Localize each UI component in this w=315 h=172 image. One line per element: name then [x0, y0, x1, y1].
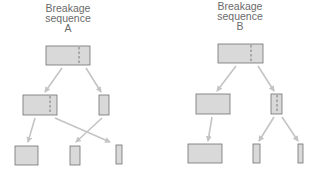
sequence-b-bottom-piece-3 — [298, 144, 303, 163]
sequence-b — [188, 44, 303, 163]
sequence-a-mid-right-fragment — [99, 95, 109, 115]
breakage-diagram — [0, 0, 315, 172]
arrow-b-left-to-bottom1 — [208, 117, 212, 141]
sequence-a-top-fragment — [46, 46, 90, 65]
sequence-a-bottom-piece-1 — [15, 146, 38, 165]
arrow-b-top-to-left — [217, 66, 236, 91]
sequence-a-bottom-piece-3 — [116, 145, 122, 164]
arrow-a-left-to-bottom1 — [28, 118, 35, 142]
sequence-b-mid-right-fragment — [271, 94, 282, 114]
sequence-b-bottom-piece-1 — [188, 144, 222, 163]
arrow-b-top-to-right — [258, 66, 274, 91]
sequence-b-mid-left-fragment — [196, 94, 230, 114]
arrow-a-left-to-bottom3 — [55, 118, 110, 142]
arrow-a-right-to-bottom2 — [76, 118, 102, 142]
sequence-b-bottom-piece-2 — [253, 144, 260, 163]
sequence-a-bottom-piece-2 — [70, 146, 80, 165]
sequence-a — [15, 46, 122, 165]
sequence-b-top-fragment — [218, 44, 263, 63]
arrow-a-top-to-left — [45, 68, 62, 92]
arrow-b-right-to-bottom3 — [282, 117, 298, 141]
sequence-a-mid-left-fragment — [23, 95, 57, 115]
arrow-b-right-to-bottom2 — [259, 117, 274, 141]
arrow-a-top-to-right — [86, 68, 101, 92]
